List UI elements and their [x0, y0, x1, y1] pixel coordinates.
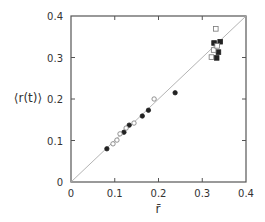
y-tick-label: 0.3: [47, 53, 63, 64]
open-square-point: [214, 27, 219, 32]
filled-square-point: [216, 50, 221, 55]
open-circle-point: [124, 126, 128, 130]
x-tick-label: 0.3: [194, 188, 210, 199]
filled-circle-point: [146, 108, 150, 112]
x-axis-title: r̄: [156, 202, 161, 216]
y-tick-label: 0.1: [47, 136, 63, 147]
scatter-chart: 00.10.20.30.400.10.20.30.4 r̄ ⟨r(t)⟩: [0, 0, 265, 222]
y-tick-label: 0: [57, 177, 63, 188]
filled-circle-point: [173, 91, 177, 95]
filled-circle-point: [140, 114, 144, 118]
open-circle-point: [115, 138, 119, 142]
open-circle-point: [118, 132, 122, 136]
open-circle-point: [111, 142, 115, 146]
x-tick-label: 0.1: [107, 188, 123, 199]
y-tick-label: 0.4: [47, 11, 63, 22]
x-tick-label: 0.4: [238, 188, 254, 199]
filled-circle-point: [105, 147, 109, 151]
y-tick-label: 0.2: [47, 94, 63, 105]
open-square-point: [215, 44, 220, 49]
x-tick-label: 0.2: [151, 188, 167, 199]
y-axis-title: ⟨r(t)⟩: [14, 91, 42, 105]
filled-square-point: [214, 56, 219, 61]
open-square-point: [209, 55, 214, 60]
open-circle-point: [132, 121, 136, 125]
plot-area: 00.10.20.30.400.10.20.30.4: [47, 11, 254, 199]
open-circle-point: [152, 97, 156, 101]
x-tick-label: 0: [68, 188, 74, 199]
